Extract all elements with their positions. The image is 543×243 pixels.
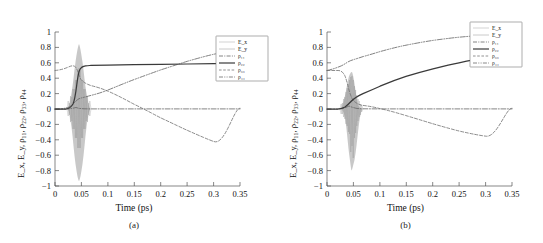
- y-tick: 0.8: [40, 42, 51, 52]
- y-tick: 0: [47, 104, 51, 114]
- x-tick: 0.3: [208, 189, 219, 199]
- panel-a-x-tickmarks: [55, 182, 240, 186]
- x-tick: 0.3: [480, 189, 491, 199]
- panel-b-field-pulse: [340, 72, 363, 171]
- x-tick: 0.35: [233, 189, 248, 199]
- y-tick: −0.4: [36, 135, 52, 145]
- legend-label-rho11: ρ₁₁: [238, 53, 245, 59]
- legend-label-Ex: E_x: [492, 25, 501, 31]
- x-tick: 0.1: [374, 189, 385, 199]
- y-tick: 0.2: [40, 89, 51, 99]
- panel-b: 1 0.8 0.6 0.4 0.2 0 −0.2 −0.4 −0.6 −0.8 …: [272, 0, 543, 243]
- legend-label-rho11: ρ₁₁: [492, 39, 499, 45]
- panel-a-field-pulse: [67, 44, 91, 181]
- y-tick: −1: [42, 181, 51, 191]
- y-tick: −0.8: [307, 166, 322, 176]
- y-tick: −1: [313, 181, 322, 191]
- x-tick: 0.1: [103, 189, 114, 199]
- y-tick: 0.4: [312, 73, 323, 83]
- y-tick: 0.6: [312, 58, 323, 68]
- y-tick: −0.2: [307, 119, 322, 129]
- legend-label-rho44: ρ₄₄: [238, 74, 245, 80]
- legend-label-Ey: E_y: [238, 46, 247, 52]
- y-tick: −0.2: [36, 119, 51, 129]
- y-tick: −0.4: [307, 135, 323, 145]
- x-tick: 0.35: [504, 189, 519, 199]
- panel-b-x-ticklabels: 0 0.05 0.1 0.15 0.2 0.25 0.3 0.35: [324, 189, 519, 199]
- y-tick: 1: [318, 27, 322, 37]
- legend-label-rho33: ρ₃₃: [492, 53, 499, 59]
- x-tick: 0.15: [127, 189, 142, 199]
- legend-label-rho44: ρ₄₄: [492, 60, 499, 66]
- x-tick: 0.05: [74, 189, 89, 199]
- panel-a: 1 0.8 0.6 0.4 0.2 0 −0.2 −0.4 −0.6 −0.8 …: [0, 0, 272, 243]
- y-tick: −0.6: [307, 150, 322, 160]
- panel-b-y-axis-label: E_x, E_y, ρ₁₁, ρ₂₂, ρ₃₃, ρ₄₄: [288, 89, 298, 178]
- panel-a-x-axis-label: Time (ps): [14, 203, 254, 213]
- panel-b-y-ticklabels: 1 0.8 0.6 0.4 0.2 0 −0.2 −0.4 −0.6 −0.8 …: [307, 27, 323, 191]
- y-tick: 1: [47, 27, 51, 37]
- legend-label-rho22: ρ₂₂: [238, 60, 245, 66]
- panel-a-y-ticklabels: 1 0.8 0.6 0.4 0.2 0 −0.2 −0.4 −0.6 −0.8 …: [36, 27, 52, 191]
- y-tick: 0.4: [40, 73, 51, 83]
- panel-a-x-ticklabels: 0 0.05 0.1 0.15 0.2 0.25 0.3 0.35: [53, 189, 248, 199]
- y-tick: 0.8: [312, 42, 323, 52]
- legend-label-rho33: ρ₃₃: [238, 67, 245, 73]
- y-tick: −0.8: [36, 166, 51, 176]
- y-tick: −0.6: [36, 150, 51, 160]
- legend-label-Ey: E_y: [492, 32, 501, 38]
- panel-a-legend: E_x E_y ρ₁₁ ρ₂₂ ρ₃₃: [216, 36, 268, 81]
- x-tick: 0.05: [345, 189, 360, 199]
- x-tick: 0.15: [398, 189, 413, 199]
- legend-label-rho22: ρ₂₂: [492, 46, 499, 52]
- panel-a-y-axis-label: E_x, E_y, ρ₁₁, ρ₂₂, ρ₃₃, ρ₄₄: [16, 89, 26, 178]
- x-tick: 0.25: [180, 189, 195, 199]
- y-tick: 0.6: [40, 58, 51, 68]
- legend-label-Ex: E_x: [238, 39, 247, 45]
- x-tick: 0: [324, 189, 328, 199]
- panel-a-caption: (a): [14, 220, 254, 230]
- x-tick: 0.25: [451, 189, 466, 199]
- x-tick: 0: [53, 189, 57, 199]
- panel-b-legend: E_x E_y ρ₁₁ ρ₂₂ ρ₃₃: [470, 22, 522, 67]
- panel-b-caption: (b): [286, 220, 526, 230]
- x-tick: 0.2: [155, 189, 166, 199]
- y-tick: 0.2: [312, 89, 323, 99]
- y-tick: 0: [318, 104, 322, 114]
- panel-b-x-axis-label: Time (ps): [286, 203, 526, 213]
- panel-b-x-tickmarks: [327, 182, 512, 186]
- figure-two-panel-population-dynamics: 1 0.8 0.6 0.4 0.2 0 −0.2 −0.4 −0.6 −0.8 …: [0, 0, 543, 243]
- x-tick: 0.2: [427, 189, 438, 199]
